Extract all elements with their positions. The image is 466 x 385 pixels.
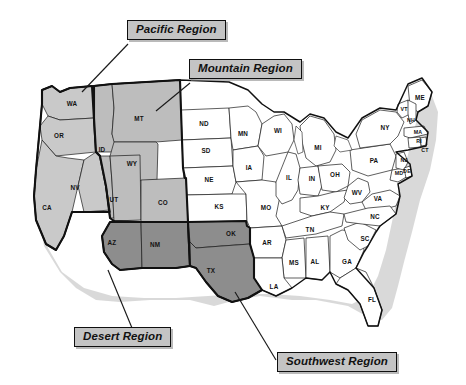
state-label-OR: OR [54,132,64,139]
leader-line-southwest [235,292,276,360]
callout-mountain-region[interactable]: Mountain Region [189,59,302,79]
state-label-CT: CT [421,147,429,153]
state-label-WV: WV [352,189,363,196]
state-label-MI: MI [314,144,321,151]
state-label-VA: VA [374,195,383,202]
state-label-KS: KS [214,203,223,210]
state-AZ [102,222,142,270]
state-label-DE: DE [403,168,411,174]
state-label-LA: LA [270,283,279,290]
state-label-MA: MA [414,129,423,135]
state-OH [318,164,350,192]
state-label-WI: WI [274,127,282,134]
state-label-ND: ND [199,120,209,127]
state-OK [188,221,250,248]
state-label-MO: MO [261,204,272,211]
state-label-IA: IA [246,164,253,171]
state-label-PA: PA [370,157,379,164]
state-label-MD: MD [395,170,404,176]
state-label-NH: NH [407,117,415,123]
state-label-WY: WY [127,160,138,167]
region-desert[interactable] [102,222,190,270]
state-label-SD: SD [201,147,210,154]
state-label-NY: NY [380,124,390,131]
state-MN [229,106,262,150]
state-MT [112,80,182,142]
state-label-NM: NM [150,241,160,248]
state-WI [258,114,294,156]
state-label-KY: KY [320,204,330,211]
callout-southwest-region[interactable]: Southwest Region [277,352,397,372]
lake-erie-huron [334,136,352,152]
state-label-NV: NV [70,184,80,191]
callout-desert-region[interactable]: Desert Region [74,327,171,347]
state-label-WA: WA [67,100,78,107]
state-label-IN: IN [309,175,316,182]
state-label-VT: VT [400,106,408,112]
state-label-RI: RI [416,138,422,144]
us-regions-map: WAORCANVIDMTWYUTCOAZNMOKTXNDSDNEKSMNIAMO… [0,0,466,385]
state-label-CO: CO [158,199,168,206]
state-label-MS: MS [289,259,299,266]
state-label-OK: OK [226,230,236,237]
state-label-CA: CA [42,204,52,211]
state-label-OH: OH [330,171,340,178]
state-label-ID: ID [99,146,106,153]
state-label-TN: TN [306,226,315,233]
state-label-TX: TX [207,267,216,274]
state-label-MT: MT [134,115,144,122]
state-MI [300,116,336,166]
state-label-NE: NE [204,176,213,183]
callout-pacific-region[interactable]: Pacific Region [127,20,226,40]
state-label-AL: AL [311,258,320,265]
state-label-AZ: AZ [108,239,117,246]
map-canvas: WAORCANVIDMTWYUTCOAZNMOKTXNDSDNEKSMNIAMO… [0,0,466,385]
state-label-NJ: NJ [400,157,407,163]
region-southwest[interactable] [188,221,262,302]
state-label-AR: AR [262,239,272,246]
state-label-IL: IL [286,174,292,181]
state-label-NC: NC [370,213,380,220]
state-label-GA: GA [342,258,352,265]
state-label-FL: FL [368,296,376,303]
state-label-UT: UT [110,196,119,203]
state-NM [141,222,190,268]
state-label-ME: ME [415,94,425,101]
state-label-SC: SC [360,235,369,242]
state-label-MN: MN [238,130,248,137]
